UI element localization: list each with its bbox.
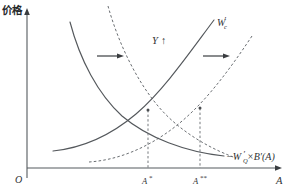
marginal-cost-curve-label-sub: c: [224, 23, 227, 30]
equilibrium-point-1: [147, 109, 150, 112]
economics-figure: 价格 O A A * A ** W ′ c −W ′ Q ×B′(A): [0, 0, 292, 194]
income-shift-arrow-icon: ↑: [161, 35, 166, 46]
x-tick-a-star-base: A: [141, 176, 148, 186]
x-axis-arrowhead: [275, 165, 282, 171]
marginal-benefit-curve: [70, 22, 224, 156]
marginal-cost-curve: [53, 20, 214, 151]
marginal-benefit-curve-label-base: −W: [226, 151, 243, 162]
marginal-benefit-curve-label: −W ′ Q ×B′(A): [226, 149, 275, 164]
left-shift-arrow: [97, 53, 124, 58]
origin-label: O: [15, 174, 22, 185]
x-tick-a-double-star: A **: [192, 174, 208, 186]
shifted-benefit-curve: [108, 6, 236, 158]
figure-canvas: 价格 O A A * A ** W ′ c −W ′ Q ×B′(A): [0, 0, 292, 194]
income-shift-label: Y: [152, 35, 159, 46]
equilibrium-point-2: [199, 107, 202, 110]
y-axis-label: 价格: [2, 4, 23, 16]
x-axis-label: A: [275, 175, 283, 186]
x-tick-a-double-star-sup: **: [200, 174, 208, 182]
right-shift-arrow: [203, 53, 230, 58]
x-tick-a-star-sup: *: [149, 174, 153, 182]
marginal-cost-curve-label: W ′ c: [217, 15, 227, 30]
income-shift-annotation: Y ↑: [152, 35, 166, 46]
x-tick-a-star: A *: [141, 174, 153, 186]
marginal-benefit-curve-label-tail: ×B′(A): [247, 151, 275, 163]
x-tick-a-double-star-base: A: [192, 176, 199, 186]
y-axis-arrowhead: [24, 8, 30, 15]
